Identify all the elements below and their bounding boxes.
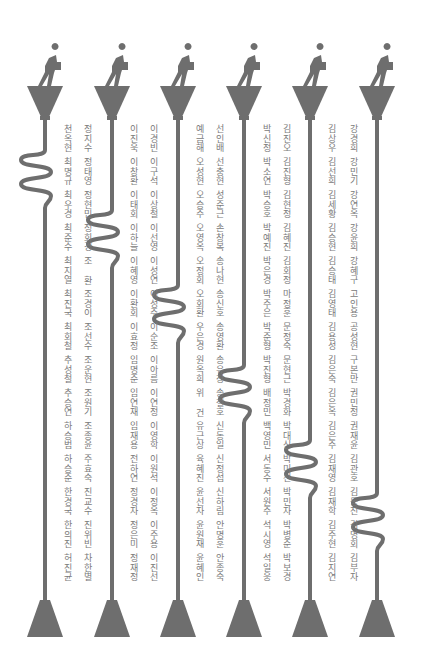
- name-entry: 선인배: [214, 124, 225, 157]
- name-entry: 김진오: [281, 124, 292, 157]
- name-entry: 오정회: [194, 256, 205, 289]
- name-entry: 석시영: [261, 520, 272, 553]
- name-entry: 이상철: [148, 190, 159, 223]
- name-column: 정지수정태영정현민정회경조 환조경이조선수조운현조원기조종윤주효숙진교수진위빈차…: [81, 124, 93, 586]
- name-entry: 강혜구: [348, 256, 359, 289]
- name-entry: 오영옥: [194, 223, 205, 256]
- name-entry: 안종숙: [214, 553, 225, 586]
- name-entry: 오성현: [194, 157, 205, 190]
- name-entry: 김지연: [326, 553, 337, 586]
- name-entry: 박신정: [261, 124, 272, 157]
- name-entry: 박보경: [281, 553, 292, 586]
- name-entry: 박진형: [261, 355, 272, 388]
- pole-base: [94, 600, 130, 637]
- name-entry: 송철호: [214, 388, 225, 421]
- name-entry: 추승연: [62, 388, 73, 421]
- name-entry: 선충현: [214, 157, 225, 190]
- name-entry: 한의진: [62, 520, 73, 553]
- name-entry: 하승범: [62, 421, 73, 454]
- name-entry: 박경화: [281, 388, 292, 421]
- name-entry: 이선영: [148, 223, 159, 256]
- name-entry: 이정옥: [148, 487, 159, 520]
- walking-person-icon: [303, 43, 326, 86]
- name-entry: 추성철: [62, 355, 73, 388]
- pole-2: [88, 43, 130, 637]
- coiled-pole: [21, 120, 51, 602]
- name-entry: 조선수: [82, 322, 93, 355]
- name-entry: 최우경: [62, 190, 73, 223]
- name-entry: 이구석: [148, 157, 159, 190]
- name-entry: 정현민: [82, 190, 93, 223]
- name-entry: 최진국: [62, 289, 73, 322]
- name-entry: 김선희: [326, 157, 337, 190]
- name-entry: 송영환: [214, 322, 225, 355]
- name-entry: 허진균: [62, 553, 73, 586]
- name-entry: 신하림: [214, 487, 225, 520]
- name-entry: 육혜진: [194, 454, 205, 487]
- name-entry: 김상우: [326, 124, 337, 157]
- walking-person-icon: [370, 43, 393, 86]
- pole-4: [220, 43, 262, 637]
- name-entry: 강연옥: [348, 190, 359, 223]
- name-entry: 권민정: [348, 388, 359, 421]
- name-entry: 김재영: [326, 454, 337, 487]
- name-entry: 김명회: [348, 520, 359, 553]
- name-entry: 이환회: [128, 289, 139, 322]
- pole-base: [359, 600, 395, 637]
- name-entry: 김회정: [281, 256, 292, 289]
- pole-base: [292, 600, 328, 637]
- name-entry: 박승호: [261, 190, 272, 223]
- name-entry: 정태영: [82, 157, 93, 190]
- name-entry: 차한별: [82, 553, 93, 586]
- name-entry: 김혜진: [281, 223, 292, 256]
- walking-person-icon: [38, 43, 61, 86]
- pole-base: [160, 600, 196, 637]
- name-entry: 한경국: [62, 487, 73, 520]
- name-entry: 김주현: [326, 520, 337, 553]
- name-entry: 박민자: [281, 487, 292, 520]
- name-entry: 신동일: [214, 421, 225, 454]
- name-entry: 석일웅: [261, 553, 272, 586]
- name-entry: 김관호: [348, 454, 359, 487]
- name-entry: 박미선: [281, 454, 292, 487]
- name-entry: 배정민: [261, 388, 272, 421]
- name-entry: 문현근: [281, 355, 292, 388]
- name-entry: 위 건: [194, 388, 205, 421]
- name-entry: 윤원재: [194, 520, 205, 553]
- name-entry: 송나현: [214, 256, 225, 289]
- name-entry: 송신호: [214, 289, 225, 322]
- name-entry: 오회환: [194, 289, 205, 322]
- pole-5: [286, 43, 328, 637]
- pole-base: [27, 600, 63, 637]
- name-entry: 예금해: [194, 124, 205, 157]
- name-entry: 이성연: [148, 256, 159, 289]
- name-entry: 김승현: [326, 223, 337, 256]
- name-entry: 박은경: [261, 256, 272, 289]
- funnel-top: [160, 86, 196, 117]
- name-entry: 최회철: [62, 322, 73, 355]
- name-entry: 전하연: [128, 454, 139, 487]
- funnel-top: [27, 86, 63, 117]
- name-entry: 조 환: [82, 256, 93, 289]
- funnel-top: [94, 86, 130, 117]
- name-column: 천옥현최명규최우경최준수최지열최진국최회철추성철추승연하승범하승준한경국한의진허…: [61, 124, 73, 586]
- name-entry: 박준형: [261, 322, 272, 355]
- funnel-top: [359, 86, 395, 117]
- name-entry: 원옥희: [194, 355, 205, 388]
- name-entry: 권재윤: [348, 421, 359, 454]
- funnel-top: [292, 86, 328, 117]
- name-entry: 박병준: [281, 520, 292, 553]
- name-entry: 조원기: [82, 388, 93, 421]
- name-entry: 우은경: [194, 322, 205, 355]
- name-entry: 김진형: [281, 157, 292, 190]
- name-entry: 이주용: [148, 520, 159, 553]
- walking-person-icon: [105, 43, 128, 86]
- name-entry: 천옥현: [62, 124, 73, 157]
- name-entry: 임재용: [128, 421, 139, 454]
- name-entry: 주효숙: [82, 454, 93, 487]
- name-entry: 성준근: [214, 190, 225, 223]
- name-entry: 최명규: [62, 157, 73, 190]
- name-entry: 서동수: [261, 454, 272, 487]
- name-entry: 구본만: [348, 355, 359, 388]
- name-entry: 임명준: [128, 355, 139, 388]
